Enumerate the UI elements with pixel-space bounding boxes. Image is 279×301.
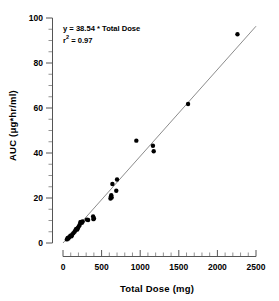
data-point bbox=[109, 195, 113, 199]
fit-annotation: y = 38.54 * Total Dose r2 = 0.97 bbox=[63, 24, 140, 46]
x-axis-title-wrapper: Total Dose (mg) bbox=[52, 278, 262, 296]
data-point bbox=[151, 144, 155, 148]
data-point bbox=[92, 216, 96, 220]
x-axis-tick-label: 1500 bbox=[169, 262, 188, 272]
fit-equation-text: y = 38.54 * Total Dose bbox=[63, 24, 140, 34]
y-axis-tick-label: 40 bbox=[34, 148, 44, 158]
x-axis-minor-ticks bbox=[71, 253, 249, 257]
data-point bbox=[134, 138, 138, 142]
y-axis-tick-label-group: 020406080100 bbox=[29, 13, 43, 248]
data-point bbox=[186, 102, 190, 106]
regression-line bbox=[63, 26, 256, 243]
x-axis-tick-label: 0 bbox=[61, 262, 66, 272]
r-squared-value: = 0.97 bbox=[69, 36, 92, 45]
x-axis-title: Total Dose (mg) bbox=[120, 283, 194, 294]
data-point bbox=[110, 182, 114, 186]
x-axis-tick-label: 2000 bbox=[208, 262, 227, 272]
y-axis-minor-ticks bbox=[49, 29, 53, 232]
data-point bbox=[80, 219, 84, 223]
x-axis-tick-label: 2500 bbox=[247, 262, 266, 272]
data-point bbox=[115, 177, 119, 181]
data-point bbox=[114, 189, 118, 193]
scatter-plot-figure: 020406080100 05001000150020002500 AUC (μ… bbox=[0, 0, 279, 301]
y-axis-tick-label: 0 bbox=[38, 238, 43, 248]
r-squared-text: r2 = 0.97 bbox=[63, 34, 140, 46]
x-axis-tick-label: 500 bbox=[95, 262, 109, 272]
x-axis-tick-label: 1000 bbox=[131, 262, 150, 272]
y-axis-tick-label: 100 bbox=[29, 13, 43, 23]
y-axis-tick-label: 20 bbox=[34, 193, 44, 203]
data-point bbox=[86, 218, 90, 222]
y-axis-tick-label: 60 bbox=[34, 103, 44, 113]
x-axis-major-ticks bbox=[63, 250, 256, 257]
data-point bbox=[152, 149, 156, 153]
x-axis-tick-label-group: 05001000150020002500 bbox=[61, 262, 266, 272]
data-point-group bbox=[65, 32, 240, 242]
data-point bbox=[235, 32, 239, 36]
y-axis-tick-label: 80 bbox=[34, 58, 44, 68]
